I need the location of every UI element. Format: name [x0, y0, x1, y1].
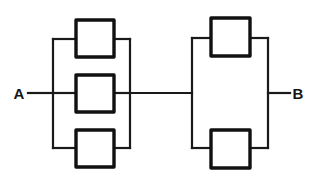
resistor-left-top — [76, 20, 114, 57]
resistor-right-top — [211, 18, 250, 56]
resistor-left-bottom — [76, 130, 114, 167]
diagram-canvas: A B — [0, 0, 319, 188]
circuit-diagram: A B — [0, 0, 319, 188]
resistor-right-bottom — [211, 130, 250, 168]
terminal-label-a: A — [14, 85, 25, 102]
terminal-label-b: B — [293, 85, 304, 102]
resistor-left-middle — [76, 75, 114, 112]
